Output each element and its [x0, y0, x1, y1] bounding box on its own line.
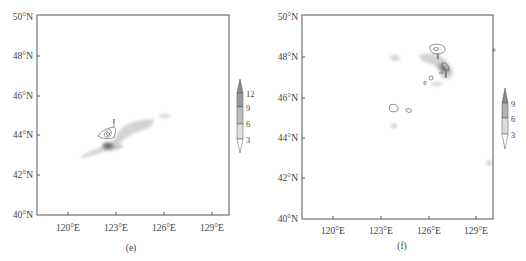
y-tick-label: 48°N [278, 52, 298, 62]
x-tick-label: 126°E [417, 226, 441, 236]
y-tick-label: 42°N [278, 173, 298, 183]
y-tick-label: 46°N [13, 91, 33, 101]
x-tick-label: 120°E [321, 226, 345, 236]
colorbar-label: 9 [246, 103, 250, 113]
map-plot-f: 1 1 50°N 48°N 46°N 44°N 42°N 40°N 120°E … [263, 0, 526, 261]
x-tick-label: 120°E [56, 223, 80, 233]
y-tick-label: 48°N [13, 51, 33, 61]
y-tick-label: 44°N [278, 133, 298, 143]
y-tick-label: 50°N [278, 12, 298, 22]
y-tick-label: 40°N [278, 214, 298, 224]
panel-label-f: (f) [397, 241, 407, 252]
colorbar-label: 3 [511, 130, 515, 140]
y-tick-label: 50°N [13, 12, 33, 22]
shaded-field-f [390, 54, 492, 166]
contour-label: 1 [436, 52, 440, 60]
y-tick-label: 40°N [13, 210, 33, 220]
contour-label: 1 [444, 71, 448, 79]
colorbar-label: 6 [246, 119, 250, 129]
x-tick-label: 123°E [104, 223, 128, 233]
y-axis-f: 50°N 48°N 46°N 44°N 42°N 40°N [278, 12, 305, 224]
panel-f: 1 1 50°N 48°N 46°N 44°N 42°N 40°N 120°E … [263, 0, 526, 261]
y-tick-label: 46°N [278, 93, 298, 103]
colorbar-f: 9 6 3 [502, 88, 515, 149]
colorbar-label: 9 [511, 99, 515, 109]
panel-label-e: (e) [126, 243, 137, 254]
colorbar-label: 12 [246, 89, 255, 99]
y-tick-label: 44°N [13, 130, 33, 140]
y-tick-label: 42°N [13, 170, 33, 180]
plot-frame-f [302, 15, 493, 219]
x-tick-label: 123°E [369, 226, 393, 236]
x-tick-label: 129°E [464, 226, 488, 236]
x-tick-label: 129°E [200, 223, 224, 233]
panel-e: 1 50°N 48°N 46°N 44°N 42°N 40°N 120°E 12… [0, 0, 263, 261]
colorbar-label: 3 [246, 135, 250, 145]
colorbar-label: 6 [511, 114, 515, 124]
x-tick-label: 126°E [152, 223, 176, 233]
colorbar-e: 12 9 6 3 [237, 79, 255, 153]
y-axis-e: 50°N 48°N 46°N 44°N 42°N 40°N [13, 12, 40, 220]
map-plot-e: 1 50°N 48°N 46°N 44°N 42°N 40°N 120°E 12… [0, 0, 263, 261]
contour-label: 1 [112, 117, 116, 125]
plot-frame-e [37, 15, 229, 215]
shaded-field-e [80, 114, 171, 159]
